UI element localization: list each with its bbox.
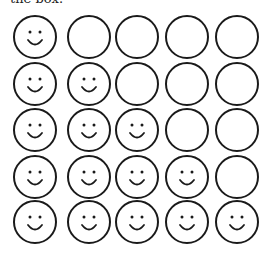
smiley-face-icon bbox=[14, 156, 56, 198]
empty-circle-icon bbox=[166, 63, 208, 105]
smiley-face-icon bbox=[166, 156, 208, 198]
smiley-face-icon bbox=[166, 201, 208, 243]
smiley-face-icon bbox=[14, 201, 56, 243]
smiley-face-icon bbox=[14, 63, 56, 105]
empty-circle-icon bbox=[216, 156, 258, 198]
smiley-face-icon bbox=[68, 156, 110, 198]
empty-circle-icon bbox=[216, 109, 258, 151]
smiley-grid bbox=[0, 0, 271, 254]
smiley-face-icon bbox=[68, 63, 110, 105]
smiley-face-icon bbox=[68, 109, 110, 151]
empty-circle-icon bbox=[116, 16, 158, 58]
smiley-face-icon bbox=[14, 109, 56, 151]
empty-circle-icon bbox=[68, 16, 110, 58]
smiley-face-icon bbox=[116, 156, 158, 198]
smiley-face-icon bbox=[68, 201, 110, 243]
empty-circle-icon bbox=[216, 63, 258, 105]
empty-circle-icon bbox=[116, 63, 158, 105]
smiley-face-icon bbox=[116, 109, 158, 151]
empty-circle-icon bbox=[166, 109, 208, 151]
empty-circle-icon bbox=[166, 16, 208, 58]
smiley-face-icon bbox=[14, 16, 56, 58]
smiley-face-icon bbox=[116, 201, 158, 243]
smiley-face-icon bbox=[216, 201, 258, 243]
empty-circle-icon bbox=[216, 16, 258, 58]
